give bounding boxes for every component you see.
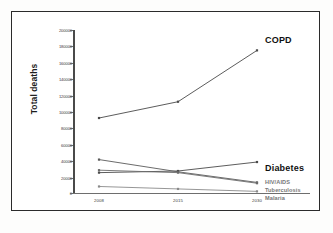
data-point-marker [98, 117, 100, 119]
series-line-copd [99, 50, 257, 118]
data-point-marker [177, 188, 179, 190]
chart-plot-area: Total deaths 200000 180000 160000 140000… [12, 12, 321, 212]
data-point-marker [256, 190, 258, 192]
series-label-diabetes: Diabetes [265, 163, 304, 173]
data-point-marker [256, 49, 258, 51]
figure-container: Total deaths 200000 180000 160000 140000… [0, 0, 333, 233]
series-label-hiv-aids: HIV/AIDS [265, 179, 290, 185]
data-point-marker [177, 172, 179, 174]
figure-border: Total deaths 200000 180000 160000 140000… [11, 11, 320, 211]
data-point-marker [98, 172, 100, 174]
series-label-malaria: Malaria [265, 195, 285, 201]
data-point-marker [256, 161, 258, 163]
data-point-marker [98, 158, 100, 160]
data-point-marker [98, 169, 100, 171]
data-point-marker [177, 101, 179, 103]
series-label-copd: COPD [265, 35, 292, 45]
series-label-tuberculosis: Tuberculosis [265, 187, 301, 193]
data-point-marker [98, 185, 100, 187]
data-point-marker [256, 182, 258, 184]
